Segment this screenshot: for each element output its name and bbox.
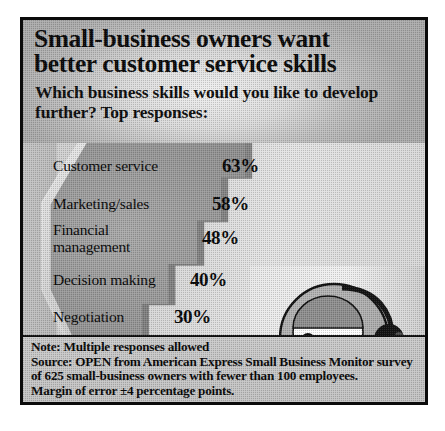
infographic-panel: Small-business owners want better custom… [20, 17, 428, 405]
subtitle-line-2: further? Top responses: [35, 102, 427, 122]
bar-value: 48% [194, 227, 239, 249]
bar-label: Negotiation [53, 309, 124, 325]
bar-label: Marketing/sales [53, 196, 149, 212]
bar-row: Marketing/sales 58% [53, 185, 249, 223]
bar-row: Customer service 63% [53, 147, 259, 185]
headline-line-1: Small-business owners want [34, 26, 424, 51]
customer-service-rep-illustration [250, 266, 425, 341]
footnote-margin-of-error: Margin of error ±4 percentage points. [31, 384, 425, 399]
bar-row: Financial management 48% [53, 219, 239, 257]
bar-label: Financial management [53, 221, 130, 255]
bar-value: 30% [166, 306, 211, 328]
bar-label: Decision making [53, 272, 155, 288]
bar-value: 40% [182, 269, 227, 291]
header-band: Small-business owners want better custom… [23, 20, 425, 143]
footnote-source: Source: OPEN from American Express Small… [31, 355, 425, 370]
footnote-source-continued: of 625 small-business owners with fewer … [31, 369, 425, 384]
subtitle: Which business skills would you like to … [35, 82, 427, 122]
footnote-note: Note: Multiple responses allowed [31, 340, 425, 355]
page-title: Small-business owners want better custom… [34, 26, 424, 76]
bar-value: 63% [214, 155, 259, 177]
bar-row: Decision making 40% [53, 261, 227, 299]
subtitle-line-1: Which business skills would you like to … [35, 82, 427, 102]
footnote: Note: Multiple responses allowed Source:… [23, 335, 425, 402]
bar-value: 58% [204, 193, 249, 215]
headline-line-2: better customer service skills [34, 51, 424, 76]
bar-row: Negotiation 30% [53, 298, 211, 336]
bar-label: Customer service [53, 158, 158, 174]
bar-chart: Customer service 63% Marketing/sales 58%… [23, 143, 425, 341]
